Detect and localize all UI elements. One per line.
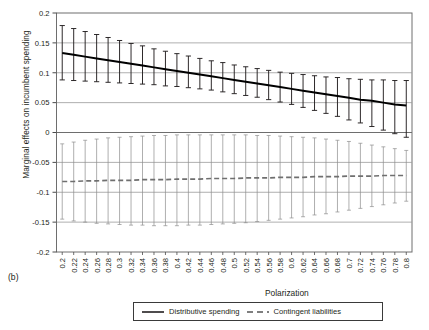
x-axis-tick-label: 0.42	[184, 258, 193, 273]
x-axis-tick-label: 0.58	[276, 258, 285, 273]
legend-label-contingent-liabilities: Contingent liabilities	[274, 307, 342, 316]
x-axis-tick-label: 0.8	[402, 258, 411, 269]
x-axis-tick-label: 0.78	[391, 258, 400, 273]
y-axis-tick-label: -0.05	[32, 158, 49, 167]
y-axis-tick-label: 0.15	[35, 39, 50, 48]
error-bar	[186, 135, 190, 225]
x-axis-tick-label: 0.22	[70, 258, 79, 273]
marginal-effects-chart: 0.20.150.10.050-0.05-0.1-0.15-0.20.20.22…	[0, 0, 429, 330]
series-distributive-spending	[60, 26, 409, 138]
x-axis-tick-label: 0.64	[310, 258, 319, 273]
x-axis-tick-label: 0.32	[127, 258, 136, 273]
x-axis-tick-label: 0.48	[219, 258, 228, 273]
x-axis-tick-label: 0.44	[196, 258, 205, 273]
chart-legend: Distributive spending Contingent liabili…	[133, 302, 383, 321]
error-bar	[404, 81, 409, 138]
error-bar	[346, 79, 351, 120]
x-axis-tick-label: 0.34	[138, 258, 147, 273]
figure-panel-b: 0.20.150.10.050-0.05-0.1-0.15-0.20.20.22…	[0, 0, 429, 330]
error-bar	[198, 135, 202, 225]
error-bar	[369, 80, 374, 127]
y-axis-tick-label: -0.2	[36, 248, 49, 257]
x-axis-tick-label: 0.2	[58, 258, 67, 269]
error-bar	[221, 135, 225, 224]
series-contingent-liabilities	[60, 135, 408, 226]
error-bar	[358, 79, 363, 123]
x-axis-tick-label: 0.26	[93, 258, 102, 273]
error-bar	[175, 135, 179, 226]
x-axis-tick-label: 0.56	[265, 258, 274, 273]
legend-key-dashed-line	[247, 308, 269, 316]
y-axis-tick-label: 0	[45, 128, 49, 137]
x-axis-tick-label: 0.76	[379, 258, 388, 273]
x-axis-tick-label: 0.72	[356, 258, 365, 273]
x-axis-tick-label: 0.52	[242, 258, 251, 273]
series-center-line	[62, 53, 406, 106]
x-axis-tick-label: 0.3	[115, 258, 124, 269]
error-bar	[392, 81, 397, 134]
y-axis-tick-label: -0.1	[36, 188, 49, 197]
legend-item-distributive-spending: Distributive spending	[142, 307, 240, 316]
x-axis-tick-label: 0.5	[230, 258, 239, 269]
x-axis-tick-label: 0.38	[161, 258, 170, 273]
legend-item-contingent-liabilities: Contingent liabilities	[247, 307, 342, 316]
error-bar	[152, 135, 156, 225]
x-axis-tick-label: 0.68	[333, 258, 342, 273]
x-axis-tick-label: 0.24	[81, 258, 90, 273]
error-bar	[244, 135, 248, 223]
error-bar	[141, 136, 145, 225]
y-axis-tick-label: 0.2	[39, 9, 50, 18]
error-bar	[267, 135, 271, 220]
x-axis-tick-label: 0.4	[173, 258, 182, 269]
x-axis-tick-label: 0.62	[299, 258, 308, 273]
x-axis-tick-label: 0.54	[253, 258, 262, 273]
error-bar	[209, 135, 213, 225]
y-axis-tick-label: -0.15	[32, 218, 49, 227]
legend-label-distributive-spending: Distributive spending	[169, 307, 240, 316]
x-axis-tick-label: 0.6	[287, 258, 296, 269]
x-axis-tick-label: 0.36	[150, 258, 159, 273]
x-axis-tick-label: 0.74	[368, 258, 377, 273]
y-axis-tick-label: 0.05	[35, 98, 50, 107]
error-bar	[163, 135, 167, 225]
y-axis-tick-label: 0.1	[39, 69, 50, 78]
x-axis-tick-label: 0.28	[104, 258, 113, 273]
panel-label: (b)	[8, 272, 19, 282]
x-axis-tick-label: 0.7	[345, 258, 354, 269]
legend-key-solid-line	[142, 308, 164, 316]
x-axis-tick-label: 0.46	[207, 258, 216, 273]
x-axis-label: Polarization	[265, 288, 309, 298]
x-axis-tick-label: 0.66	[322, 258, 331, 273]
y-axis-label: Marginal effects on incumbent spending	[22, 0, 31, 215]
error-bar	[381, 80, 386, 130]
